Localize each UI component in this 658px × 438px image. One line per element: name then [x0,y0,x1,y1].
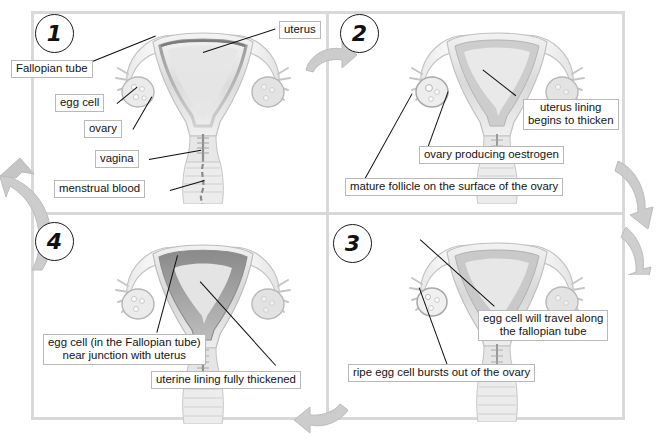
label-uterus-lining: uterus lining begins to thicken [523,99,619,130]
label-egg-in-tube: egg cell (in the Fallopian tube) near ju… [43,334,206,365]
uterus-illustration-1 [98,16,308,204]
label-ovary: ovary [84,120,122,138]
label-egg-travel: egg cell will travel along the fallopian… [478,310,608,341]
step-number-1: 1 [35,14,74,53]
label-vagina: vagina [95,150,139,168]
label-ovary-oestrogen: ovary producing oestrogen [419,146,564,164]
arrow-right-icon [612,155,658,275]
label-ripe-egg: ripe egg cell bursts out of the ovary [348,364,535,382]
label-fallopian-tube: Fallopian tube [11,60,93,78]
step-number-3: 3 [333,224,372,263]
step-4-text: 4 [47,229,62,254]
label-menstrual-blood: menstrual blood [54,180,145,198]
label-uterus: uterus [279,21,321,39]
step-number-2: 2 [340,14,379,53]
uterus-illustration-4 [98,228,308,424]
horizontal-divider [31,212,625,215]
step-3-text: 3 [345,231,360,256]
label-mature-follicle: mature follicle on the surface of the ov… [345,178,563,196]
label-uterine-thickened: uterine lining fully thickened [151,371,301,389]
step-2-text: 2 [352,21,367,46]
step-1-text: 1 [47,21,62,46]
step-number-4: 4 [35,222,74,261]
label-egg-cell: egg cell [55,94,104,112]
